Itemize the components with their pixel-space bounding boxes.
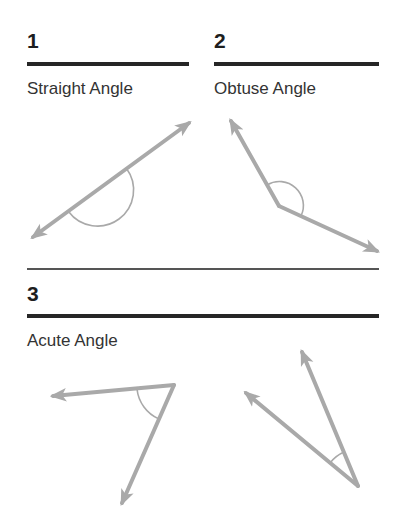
angle-figures <box>0 0 398 532</box>
acute-left-ray-down <box>122 385 174 503</box>
obtuse-angle-ray-up <box>231 121 279 206</box>
obtuse-angle-figure <box>231 121 377 251</box>
acute-right-arc <box>330 452 344 463</box>
straight-angle-ray <box>33 123 189 237</box>
acute-right-ray-up <box>302 352 358 486</box>
acute-left-arc <box>137 389 159 419</box>
straight-angle-figure <box>33 123 189 237</box>
acute-angle-right-figure <box>246 352 358 486</box>
acute-angle-left-figure <box>53 385 174 503</box>
acute-left-ray-horizontal <box>53 385 174 396</box>
straight-angle-arc <box>69 169 134 227</box>
acute-right-ray-left <box>246 393 358 486</box>
obtuse-angle-ray-right <box>279 206 377 251</box>
